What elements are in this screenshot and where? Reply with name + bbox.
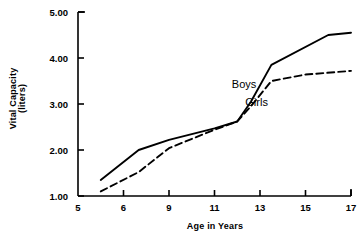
chart-figure: 1.002.003.004.005.00 56911131517 BoysGir… (0, 0, 361, 236)
y-axis-tick-label: 4.00 (50, 53, 69, 64)
x-axis-tick-label: 17 (346, 202, 357, 213)
x-axis-title: Age in Years (187, 221, 243, 231)
x-axis-tick-label: 9 (166, 202, 171, 213)
x-axis-tick-label: 5 (75, 202, 81, 213)
y-axis-tick-label: 2.00 (50, 145, 69, 156)
y-axis-tick-label: 3.00 (50, 99, 69, 110)
x-axis-tick-label: 6 (121, 202, 126, 213)
y-axis-tick-label: 5.00 (50, 7, 69, 18)
series-label-girls: Girls (245, 96, 268, 108)
series-label-boys: Boys (232, 78, 257, 90)
x-axis-tick-label: 11 (209, 202, 220, 213)
x-axis-tick-label: 15 (300, 202, 311, 213)
x-axis-tick-label: 13 (255, 202, 266, 213)
y-axis-tick-label: 1.00 (50, 191, 69, 202)
vital-capacity-line-chart: 1.002.003.004.005.00 56911131517 BoysGir… (0, 0, 361, 236)
